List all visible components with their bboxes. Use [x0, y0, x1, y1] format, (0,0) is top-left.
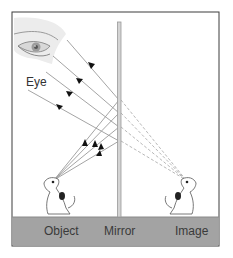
mirror-label: Mirror — [104, 224, 135, 238]
diagram-canvas — [0, 0, 233, 258]
mirror — [118, 22, 122, 217]
object-label: Object — [44, 224, 79, 238]
reflection-diagram: Eye Object Mirror Image — [0, 0, 233, 258]
image-label: Image — [175, 224, 208, 238]
eye-label: Eye — [26, 75, 47, 89]
